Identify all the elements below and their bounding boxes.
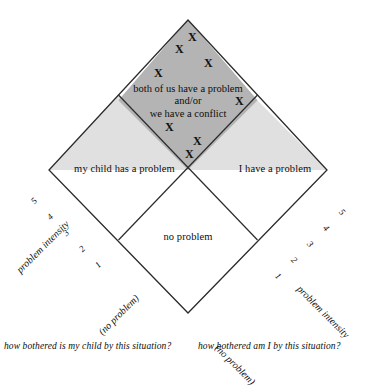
conflict-line-2: and/or: [108, 95, 268, 107]
x-mark: X: [175, 43, 184, 55]
x-mark: X: [154, 67, 163, 79]
right-caption: how bothered am I by this situation?: [198, 341, 341, 351]
x-mark: X: [165, 121, 174, 133]
x-mark: X: [193, 135, 202, 147]
child-problem-label: my child has a problem: [62, 163, 187, 174]
no-problem-label: no problem: [140, 231, 236, 242]
x-mark: X: [185, 148, 194, 160]
my-problem-label: I have a problem: [225, 163, 325, 174]
x-mark: X: [204, 57, 213, 69]
conflict-line-1: both of us have a problem: [108, 83, 268, 95]
left-caption: how bothered is my child by this situati…: [4, 341, 171, 351]
conflict-quadrant-text: both of us have a problem and/or we have…: [108, 83, 268, 120]
conflict-line-3: we have a conflict: [108, 108, 268, 120]
x-mark: X: [188, 31, 197, 43]
